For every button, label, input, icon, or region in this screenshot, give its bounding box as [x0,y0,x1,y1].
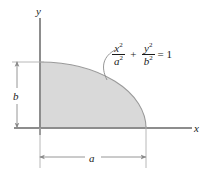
fraction-y-over-b: y2 b2 [142,42,155,67]
fraction-denominator-b: b2 [142,55,155,67]
fraction-denominator-a: a2 [112,55,125,67]
ellipse-equation: x2 a2 + y2 b2 = 1 [112,42,172,67]
fraction-numerator-x: x2 [112,42,125,55]
figure-canvas: y x b a [0,0,208,172]
y-axis-label: y [35,5,41,17]
equation-relation: = 1 [157,49,171,60]
x-axis-label: x [193,122,199,134]
plus-operator: + [128,49,139,60]
dimension-label-a: a [89,152,95,164]
dimension-label-b: b [13,90,19,102]
fraction-x-over-a: x2 a2 [112,42,125,67]
ellipse-figure: y x b a x2 a2 + y2 b2 = 1 [0,0,208,172]
quarter-ellipse-fill [40,62,146,128]
